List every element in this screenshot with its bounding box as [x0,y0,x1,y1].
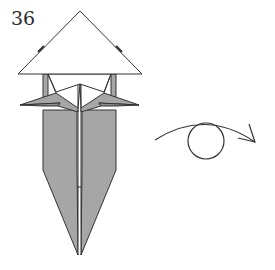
body-right-panel [81,110,116,255]
right-wing [81,93,139,112]
body-left-panel [43,110,78,255]
left-wing [20,93,78,112]
turn-over-arrow-icon [155,123,255,159]
origami-diagram [0,0,275,270]
turn-over-circle [188,123,224,159]
hat-triangle [18,11,142,74]
turn-over-arc [155,124,255,142]
